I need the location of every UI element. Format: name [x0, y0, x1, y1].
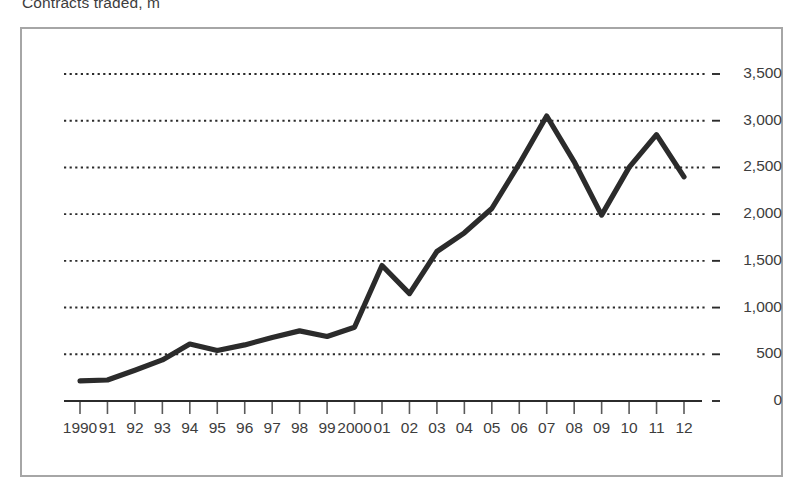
x-axis-tick-label: 99 — [318, 420, 335, 436]
x-axis-tick-label: 07 — [538, 420, 555, 436]
gridlines — [64, 74, 708, 354]
x-axis-tick-label: 02 — [401, 420, 418, 436]
data-series-line — [80, 116, 684, 381]
x-axis-tick-label: 97 — [264, 420, 281, 436]
x-axis-tick-label: 09 — [593, 420, 610, 436]
x-axis-tick-label: 94 — [181, 420, 198, 436]
x-axis-tick-label: 12 — [675, 420, 692, 436]
y-axis-tick-marks — [712, 74, 720, 401]
y-axis-tick-label: 500 — [724, 345, 782, 361]
y-axis-tick-label: 3,000 — [724, 112, 782, 128]
x-axis-tick-label: 10 — [620, 420, 637, 436]
x-axis-tick-label: 08 — [566, 420, 583, 436]
y-axis-tick-label: 3,500 — [724, 65, 782, 81]
y-axis-tick-label: 2,000 — [724, 205, 782, 221]
line-chart-plot — [22, 29, 781, 475]
x-axis-tick-label: 03 — [428, 420, 445, 436]
x-axis-tick-label: 01 — [373, 420, 390, 436]
y-axis-tick-label: 2,500 — [724, 158, 782, 174]
x-axis-tick-label: 91 — [99, 420, 116, 436]
x-axis-ticks — [80, 402, 684, 414]
x-axis-tick-label: 98 — [291, 420, 308, 436]
x-axis-tick-label: 96 — [236, 420, 253, 436]
x-axis-tick-label: 93 — [154, 420, 171, 436]
x-axis-tick-label: 2000 — [337, 420, 371, 436]
chart-frame: 05001,0001,5002,0002,5003,0003,500 19909… — [20, 27, 783, 477]
x-axis-tick-label: 95 — [209, 420, 226, 436]
y-axis-tick-label: 1,500 — [724, 252, 782, 268]
x-axis-tick-label: 1990 — [63, 420, 97, 436]
y-axis-tick-label: 0 — [724, 392, 782, 408]
x-axis-tick-label: 11 — [648, 420, 664, 436]
x-axis-tick-label: 04 — [456, 420, 473, 436]
page-title: Contracts traded, m — [22, 0, 160, 12]
x-axis-tick-label: 92 — [126, 420, 143, 436]
y-axis-tick-label: 1,000 — [724, 299, 782, 315]
x-axis — [64, 401, 702, 414]
x-axis-tick-label: 06 — [511, 420, 528, 436]
x-axis-tick-label: 05 — [483, 420, 500, 436]
